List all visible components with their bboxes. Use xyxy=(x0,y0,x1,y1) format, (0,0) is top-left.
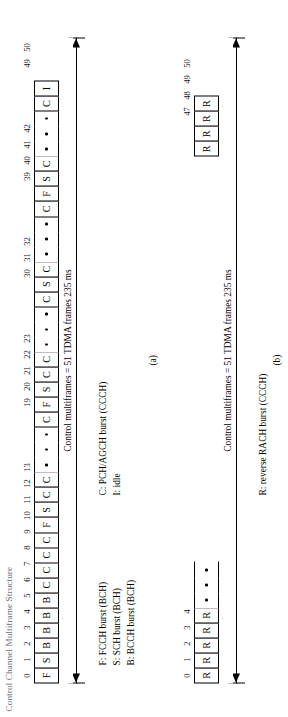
burst-cell: S xyxy=(34,501,59,517)
burst-cell: C xyxy=(34,546,59,562)
index-label: 21 xyxy=(22,362,32,378)
burst-cell: B xyxy=(34,637,59,653)
spacer-cell xyxy=(194,261,219,277)
index-label: 3 xyxy=(182,619,192,635)
index-label: 49 xyxy=(182,71,192,87)
spacer-cell xyxy=(194,291,219,307)
index-label: 42 xyxy=(22,120,32,136)
spacer-cell xyxy=(194,306,219,322)
burst-cell: C xyxy=(34,531,59,547)
burst-cell: C xyxy=(34,366,59,382)
ellipsis-cell xyxy=(34,441,59,457)
index-label: 0 xyxy=(182,667,192,683)
index-label: 23 xyxy=(22,330,32,346)
index-label: 12 xyxy=(22,475,32,491)
burst-cell: C xyxy=(34,155,59,171)
figure-title: Control Channel Multiframe Structure xyxy=(4,566,14,711)
spacer-cell xyxy=(194,366,219,382)
burst-cell: R xyxy=(194,125,219,141)
spacer-cell xyxy=(194,246,219,262)
spacer-cell xyxy=(194,155,219,171)
panel-a-span-label: Control multiframes = 51 TDMA frames 235… xyxy=(63,265,73,455)
index-label: 32 xyxy=(22,233,32,249)
index-label: 8 xyxy=(22,539,32,555)
index-label: 13 xyxy=(22,459,32,475)
burst-cell: C xyxy=(34,561,59,577)
spacer-cell xyxy=(194,546,219,562)
index-label: 3 xyxy=(22,619,32,635)
index-label: 48 xyxy=(182,87,192,103)
index-label: 19 xyxy=(22,394,32,410)
index-label: 5 xyxy=(22,587,32,603)
spacer-cell xyxy=(194,215,219,231)
index-label: 11 xyxy=(22,491,32,507)
spacer-cell xyxy=(194,351,219,367)
index-label: 7 xyxy=(22,555,32,571)
panel-b-span-arrow: Control multiframes = 51 TDMA frames 235… xyxy=(226,37,248,683)
index-label: 20 xyxy=(22,378,32,394)
panel-b-frame-chain: RRRRRRRRR xyxy=(194,96,219,683)
burst-cell: R xyxy=(194,637,219,653)
burst-cell: R xyxy=(194,667,219,683)
index-label: 49 xyxy=(22,55,32,71)
spacer-cell xyxy=(194,501,219,517)
burst-cell: C xyxy=(34,471,59,487)
panel-a-legend-right: C: PCH/AGCH burst (CCCH) I: idle xyxy=(96,381,124,495)
spacer-cell xyxy=(194,516,219,532)
spacer-cell xyxy=(194,230,219,246)
panel-b-sublabel: (b) xyxy=(272,354,282,365)
burst-cell: C xyxy=(34,291,59,307)
spacer-cell xyxy=(194,200,219,216)
index-label: 6 xyxy=(22,571,32,587)
burst-cell: R xyxy=(194,652,219,668)
spacer-cell xyxy=(194,441,219,457)
panel-a-sublabel: (a) xyxy=(148,355,158,365)
spacer-cell xyxy=(194,456,219,472)
index-label: 1 xyxy=(22,651,32,667)
ellipsis-cell xyxy=(34,140,59,156)
index-label: 50 xyxy=(182,55,192,71)
index-label: 0 xyxy=(22,667,32,683)
index-label: 2 xyxy=(22,635,32,651)
index-label: 39 xyxy=(22,168,32,184)
spacer-cell xyxy=(194,185,219,201)
burst-cell: S xyxy=(34,381,59,397)
ellipsis-cell xyxy=(34,110,59,126)
spacer-cell xyxy=(194,321,219,337)
index-label: 31 xyxy=(22,249,32,265)
panel-b-index-row: 0 1 2 3 4 47 48 49 50 xyxy=(182,0,193,717)
burst-cell: C xyxy=(34,351,59,367)
index-label: 22 xyxy=(22,346,32,362)
spacer-cell xyxy=(194,426,219,442)
burst-cell: S xyxy=(34,652,59,668)
ellipsis-cell xyxy=(34,246,59,262)
burst-cell: R xyxy=(194,622,219,638)
burst-cell: R xyxy=(194,110,219,126)
index-label: 50 xyxy=(22,39,32,55)
panel-b-legend-left: R: reverse RACH burst (CCCH) xyxy=(256,373,270,495)
spacer-cell xyxy=(194,531,219,547)
panel-a-legend-left: F: FCCH burst (BCH) S: SCH burst (BCH) B… xyxy=(96,579,139,665)
spacer-cell xyxy=(194,170,219,186)
ellipsis-cell xyxy=(194,592,219,608)
burst-cell: C xyxy=(34,411,59,427)
ellipsis-cell xyxy=(194,561,219,577)
burst-cell: F xyxy=(34,516,59,532)
spacer-cell xyxy=(194,336,219,352)
burst-cell: C xyxy=(34,95,59,111)
burst-cell: R xyxy=(194,607,219,623)
index-label: 41 xyxy=(22,136,32,152)
burst-cell: B xyxy=(34,607,59,623)
burst-cell: R xyxy=(194,95,219,111)
burst-cell: C xyxy=(34,261,59,277)
index-label: 4 xyxy=(22,603,32,619)
panel-a-index-row: 0 1 2 3 4 5 6 7 8 9 10 11 12 13 19 20 21… xyxy=(22,0,33,717)
spacer-cell xyxy=(194,276,219,292)
burst-cell: I xyxy=(34,80,59,96)
panel-b-span-label: Control multiframes = 51 TDMA frames 235… xyxy=(223,265,233,455)
ellipsis-cell xyxy=(34,426,59,442)
ellipsis-cell xyxy=(34,215,59,231)
ellipsis-cell xyxy=(34,125,59,141)
burst-cell: F xyxy=(34,667,59,683)
ellipsis-cell xyxy=(194,577,219,593)
